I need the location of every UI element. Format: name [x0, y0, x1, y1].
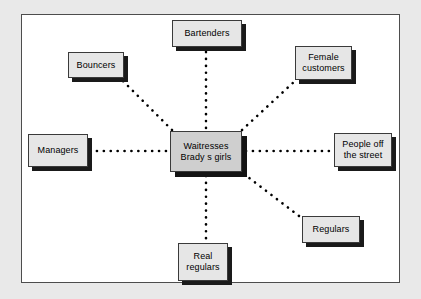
node-people-off-street-label: People off the street: [339, 139, 386, 161]
node-female-customers-label: Female customers: [299, 52, 347, 74]
node-female-customers[interactable]: Female customers: [295, 46, 352, 80]
node-bouncers[interactable]: Bouncers: [68, 52, 124, 78]
node-bartenders-label: Bartenders: [181, 28, 232, 39]
node-center-waitresses[interactable]: Waitresses Brady s girls: [170, 131, 242, 172]
node-people-off-street[interactable]: People off the street: [334, 133, 392, 167]
node-bartenders[interactable]: Bartenders: [172, 20, 242, 47]
node-real-regulars[interactable]: Real regulars: [178, 243, 228, 281]
node-center-label: Waitresses Brady s girls: [178, 141, 235, 163]
node-regulars[interactable]: Regulars: [302, 216, 360, 243]
diagram-canvas: Bartenders Bouncers Female customers Man…: [0, 0, 421, 299]
node-real-regulars-label: Real regulars: [183, 251, 222, 273]
node-bouncers-label: Bouncers: [74, 60, 119, 71]
node-managers[interactable]: Managers: [28, 134, 88, 167]
node-managers-label: Managers: [35, 145, 82, 156]
node-regulars-label: Regulars: [310, 224, 353, 235]
